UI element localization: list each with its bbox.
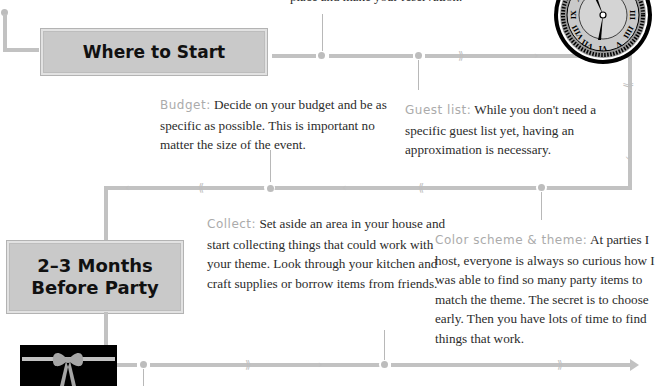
note-text: At parties I host, everyone is always so… [435,232,655,346]
timeline-dot [140,361,147,368]
note-label: Guest list: [405,103,471,117]
timeline-segment [628,54,632,187]
stage-title-line1: 2–3 Months [31,255,159,277]
timeline-segment [104,312,108,346]
svg-text:IX: IX [569,10,578,19]
chevron-right-icon: ⟫ [245,360,251,370]
timeline-dot [318,52,325,59]
arrow-right-icon: › [318,360,322,370]
chevron-right-icon: ⟫ [557,360,563,370]
note-collect: Collect: Set aside an area in your house… [207,214,447,293]
note-color-scheme: Color scheme & theme: At parties I host,… [435,230,655,348]
connector-tick [418,60,419,90]
stage-banner-where-to-start: Where to Start [40,28,268,76]
timeline-segment [391,363,631,367]
chevron-right-icon: ⟫ [458,51,464,61]
arrow-left-icon: ‹ [342,183,346,193]
svg-text:III: III [628,10,637,20]
top-snippet-text: place and make your reservation. [290,0,462,5]
arrow-down-icon: › [623,156,633,160]
connector-tick [143,369,144,386]
timeline-segment [106,186,632,190]
note-label: Budget: [160,98,211,112]
timeline-segment [117,363,137,367]
connector-tick [384,330,385,360]
stage-title-line2: Before Party [31,277,159,299]
connector-tick [541,192,542,220]
timeline-dot [538,184,545,191]
timeline-segment [104,186,108,240]
note-label: Color scheme & theme: [435,233,587,247]
connector-tick [322,14,323,51]
timeline-segment [3,14,7,51]
timeline-dot [415,52,422,59]
arrow-right-icon: › [534,51,538,61]
connector-tick [270,150,271,182]
timeline-dot [381,361,388,368]
note-budget: Budget: Decide on your budget and be as … [160,95,405,155]
stage-banner-2-3-months: 2–3 Months Before Party [6,240,184,314]
stage-title: Where to Start [83,42,225,62]
chevron-left-icon: ⟪ [418,183,424,193]
timeline-segment [272,54,316,58]
timeline-segment [150,363,382,367]
arrow-left-icon: ‹ [125,183,129,193]
timeline-dot [267,185,274,192]
svg-text:VI: VI [599,44,609,53]
note-guest-list: Guest list: While you don't need a speci… [405,100,620,160]
arrow-right-icon [630,359,639,371]
note-label: Collect: [207,217,256,231]
clock-icon: III IIII V VI VII VIII IX X [552,0,654,66]
timeline-segment [329,54,413,58]
gift-box-icon [20,345,117,386]
chevron-down-icon: ⟫ [623,82,633,88]
timeline-segment [3,48,39,52]
chevron-left-icon: ⟪ [198,183,204,193]
